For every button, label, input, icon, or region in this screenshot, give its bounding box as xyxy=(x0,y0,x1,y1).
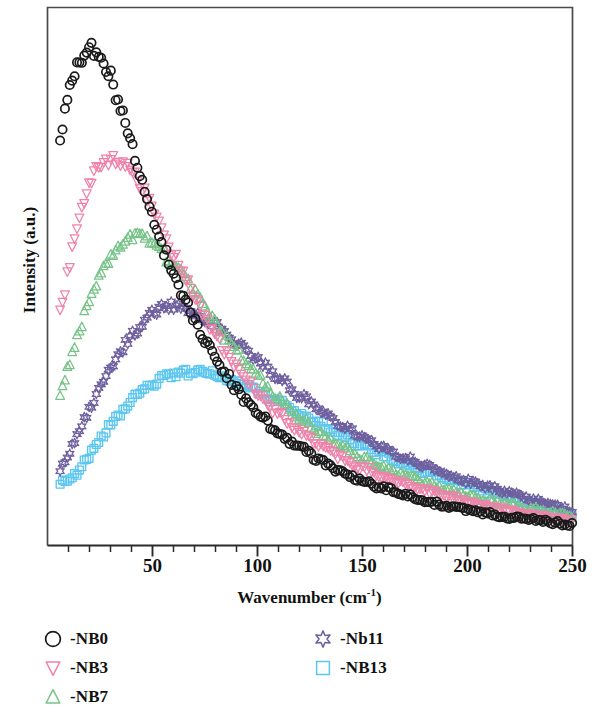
x-axis-label: Wavenumber (cm-1) xyxy=(47,586,572,608)
legend-marker-nb11 xyxy=(310,628,336,650)
spectra-plot xyxy=(0,0,601,716)
legend-label-nb13: -NB13 xyxy=(340,658,387,678)
legend-column-right: -Nb11-NB13 xyxy=(310,624,387,682)
x-axis-label-text: Wavenumber (cm-1) xyxy=(237,588,381,607)
legend-item-nb3[interactable]: -NB3 xyxy=(40,653,108,682)
x-tick-label-50: 50 xyxy=(123,555,183,577)
series-nb3 xyxy=(56,152,577,528)
figure-container: 50100150200250 Intensity (a.u.) Wavenumb… xyxy=(0,0,601,716)
legend-item-nb11[interactable]: -Nb11 xyxy=(310,624,387,653)
legend-label-nb7: -NB7 xyxy=(70,687,108,707)
x-tick-label-100: 100 xyxy=(228,555,288,577)
star6-marker-icon xyxy=(312,628,334,650)
legend-marker-nb0 xyxy=(40,628,66,650)
plot-frame xyxy=(48,8,573,546)
legend-column-left: -NB0-NB3-NB7 xyxy=(40,624,108,711)
square-marker-icon xyxy=(312,657,334,679)
legend-marker-nb3 xyxy=(40,657,66,679)
x-tick-label-250: 250 xyxy=(543,555,601,577)
legend-label-nb11: -Nb11 xyxy=(340,629,384,649)
x-axis-label-paren: ) xyxy=(376,588,382,607)
y-axis-label: Intensity (a.u.) xyxy=(20,80,40,440)
y-axis-label-text: Intensity (a.u.) xyxy=(20,207,39,313)
x-axis-label-main: Wavenumber (cm xyxy=(237,588,367,607)
legend-item-nb7[interactable]: -NB7 xyxy=(40,682,108,711)
legend-label-nb0: -NB0 xyxy=(70,629,108,649)
legend: -NB0-NB3-NB7 -Nb11-NB13 xyxy=(34,624,574,712)
legend-item-nb13[interactable]: -NB13 xyxy=(310,653,387,682)
legend-item-nb0[interactable]: -NB0 xyxy=(40,624,108,653)
series-nb7 xyxy=(56,228,577,521)
legend-label-nb3: -NB3 xyxy=(70,658,108,678)
series-nb0 xyxy=(56,39,576,530)
circle-marker-icon xyxy=(42,628,64,650)
triangle-down-marker-icon xyxy=(42,657,64,679)
x-tick-label-200: 200 xyxy=(438,555,498,577)
x-tick-label-150: 150 xyxy=(333,555,393,577)
data-series-group xyxy=(56,39,577,530)
legend-marker-nb7 xyxy=(40,686,66,708)
legend-marker-nb13 xyxy=(310,657,336,679)
x-axis-label-superscript: -1 xyxy=(367,586,376,598)
triangle-up-marker-icon xyxy=(42,686,64,708)
